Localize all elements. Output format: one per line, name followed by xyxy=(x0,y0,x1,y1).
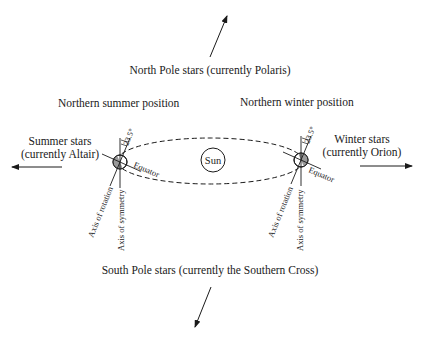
summer-position-label: Northern summer position xyxy=(58,97,179,110)
axis-rotation-label-winter: Axis of rotation xyxy=(266,184,296,238)
axis-rotation-label-summer: Axis of rotation xyxy=(86,184,116,238)
equator-label-summer: Equator xyxy=(132,160,161,180)
south-pole-label: South Pole stars (currently the Southern… xyxy=(90,264,330,277)
axis-symmetry-label-summer: Axis of symmetry xyxy=(116,189,126,251)
earth-winter xyxy=(283,136,321,186)
winter-position-label: Northern winter position xyxy=(240,96,354,109)
winter-stars-label-1: Winter stars xyxy=(317,133,407,146)
summer-stars-label-1: Summer stars xyxy=(20,135,100,148)
winter-stars-label-2: (currently Orion) xyxy=(317,146,407,159)
summer-stars-label-2: (currently Altair) xyxy=(16,148,104,161)
tilt-angle-label-winter: 23.5° xyxy=(303,125,318,144)
sun-label: Sun xyxy=(205,155,222,166)
tilt-angle-label-summer: 23.5° xyxy=(122,127,137,146)
orbit-diagram: 23.5° Equator Axis of rotation Axis of s… xyxy=(0,0,425,342)
axis-symmetry-label-winter: Axis of symmetry xyxy=(295,189,305,251)
equator-label-winter: Equator xyxy=(307,165,336,185)
north-pole-label: North Pole stars (currently Polaris) xyxy=(125,64,295,77)
north-arrow xyxy=(210,16,227,57)
south-arrow xyxy=(195,287,211,327)
